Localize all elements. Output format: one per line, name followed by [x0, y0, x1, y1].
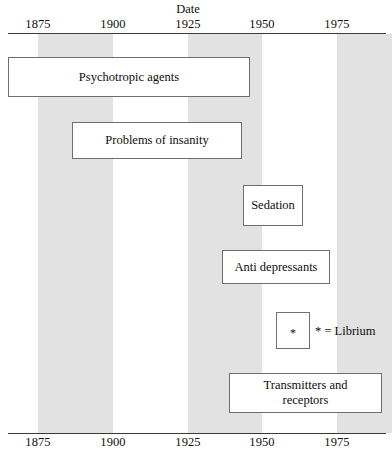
transmitters-line-2: receptors	[283, 393, 329, 408]
era-box-librium-marker: *	[276, 312, 310, 349]
bottom-axis-line	[8, 433, 386, 434]
top-axis-line	[8, 33, 386, 34]
librium-asterisk-icon: *	[290, 327, 296, 339]
librium-legend-label: * = Librium	[315, 324, 376, 339]
era-box-sedation: Sedation	[243, 185, 303, 226]
timeline-chart: Date 1875 1900 1925 1950 1975 1875 1900 …	[0, 0, 392, 463]
transmitters-line-1: Transmitters and	[264, 378, 348, 393]
era-box-transmitters-and-receptors: Transmitters and receptors	[229, 373, 382, 413]
axis-title-date: Date	[176, 2, 200, 17]
tick-label-bottom-1900: 1900	[100, 435, 125, 450]
tick-label-top-1900: 1900	[100, 17, 125, 32]
tick-label-bottom-1950: 1950	[249, 435, 274, 450]
tick-label-bottom-1875: 1875	[25, 435, 50, 450]
era-box-problems-of-insanity: Problems of insanity	[72, 122, 242, 159]
tick-label-top-1950: 1950	[249, 17, 274, 32]
tick-label-top-1875: 1875	[25, 17, 50, 32]
tick-label-top-1975: 1975	[324, 17, 349, 32]
tick-label-top-1925: 1925	[175, 17, 200, 32]
era-box-psychotropic-agents: Psychotropic agents	[8, 57, 250, 97]
tick-label-bottom-1925: 1925	[175, 435, 200, 450]
era-box-anti-depressants: Anti depressants	[222, 250, 330, 284]
tick-label-bottom-1975: 1975	[324, 435, 349, 450]
